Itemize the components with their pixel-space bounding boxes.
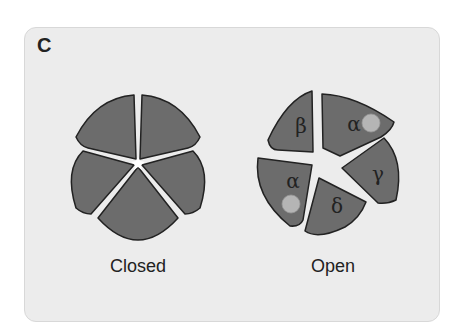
label-beta: β xyxy=(295,114,307,138)
label-alpha-1: α xyxy=(347,112,361,136)
label-gamma: γ xyxy=(372,162,384,186)
open-caption: Open xyxy=(273,256,393,277)
subunit-alpha-2 xyxy=(257,158,312,226)
closed-caption: Closed xyxy=(78,256,198,277)
receptor-diagram: β α γ δ α xyxy=(0,0,454,334)
ligand-icon xyxy=(362,114,380,132)
closed-channel xyxy=(71,95,204,240)
label-alpha-2: α xyxy=(286,169,300,193)
label-delta: δ xyxy=(331,194,343,218)
ligand-icon xyxy=(282,195,300,213)
